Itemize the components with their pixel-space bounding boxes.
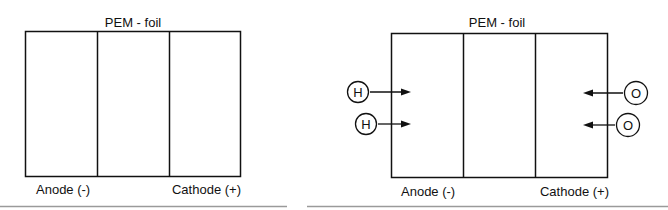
- arrow-right-icon: [401, 89, 411, 96]
- anode-label: Anode (-): [36, 182, 90, 197]
- pem-foil-title: PEM - foil: [105, 15, 161, 30]
- oxygen-atom-label: O: [631, 86, 641, 101]
- hydrogen-input-1: H: [348, 82, 412, 103]
- hydrogen-input-2: H: [356, 114, 412, 135]
- fuel-cell-box: [26, 32, 241, 177]
- cathode-label: Cathode (+): [172, 182, 241, 197]
- hydrogen-atom-label: H: [353, 85, 362, 100]
- cathode-label: Cathode (+): [540, 184, 609, 199]
- oxygen-input-1: O: [583, 82, 648, 105]
- arrow-left-icon: [583, 90, 593, 97]
- hydrogen-atom-label: H: [361, 117, 370, 132]
- arrow-right-icon: [401, 121, 411, 128]
- arrow-left-icon: [583, 122, 593, 129]
- pem-foil-title: PEM - foil: [469, 15, 525, 30]
- anode-label: Anode (-): [401, 184, 455, 199]
- oxygen-input-2: O: [583, 114, 640, 137]
- panel-with-gases: PEM - foil H H O O A: [307, 15, 668, 207]
- panel-without-gases: PEM - foil Anode (-) Cathode (+): [0, 15, 287, 207]
- oxygen-atom-label: O: [623, 118, 633, 133]
- pem-diagram: PEM - foil Anode (-) Cathode (+) PEM - f…: [0, 0, 668, 210]
- fuel-cell-box: [392, 34, 608, 178]
